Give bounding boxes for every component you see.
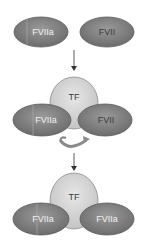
stage-1: FVIIa FVII <box>14 17 134 47</box>
activation-diagram: FVIIa FVII TF FVIIa FVII <box>0 0 150 246</box>
fvii-label: FVII <box>99 27 116 37</box>
fvii-label: FVII <box>98 115 115 125</box>
fviia-label: FVIIa <box>32 27 54 37</box>
curved-arrow-icon <box>60 136 90 146</box>
fviia-left-ellipse-stage3: FVIIa <box>13 203 69 235</box>
fvii-ellipse-stage2: FVII <box>78 104 132 136</box>
fviia-label: FVIIa <box>32 214 54 224</box>
fviia-ellipse-stage1: FVIIa <box>14 17 68 47</box>
fviia-ellipse-stage2: FVIIa <box>13 104 71 136</box>
down-arrow-2 <box>71 153 77 171</box>
fviia-right-ellipse-stage3: FVIIa <box>80 203 134 235</box>
stage-2: TF FVIIa FVII <box>13 77 132 146</box>
fvii-ellipse-stage1: FVII <box>80 17 134 47</box>
down-arrow-1 <box>71 50 77 71</box>
fviia-label: FVIIa <box>96 214 118 224</box>
stage-3: TF FVIIa FVIIa <box>13 173 134 235</box>
tf-label: TF <box>69 192 80 202</box>
fviia-label: FVIIa <box>35 115 57 125</box>
tf-label: TF <box>69 92 80 102</box>
